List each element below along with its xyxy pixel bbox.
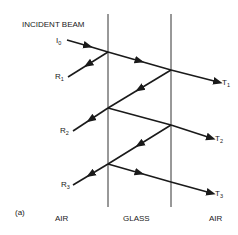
medium-label-air-right: AIR <box>209 214 223 223</box>
transmitted-label-1: T1 <box>222 78 230 88</box>
reflected-ray-2 <box>73 108 108 131</box>
glass-ray-2 <box>108 70 171 108</box>
transmitted-ray-3 <box>171 182 211 193</box>
medium-label-glass: GLASS <box>123 214 150 223</box>
incident-ray <box>67 40 108 52</box>
glass-ray-3 <box>108 108 171 125</box>
glass-ray-1 <box>108 52 171 70</box>
medium-label-air-left: AIR <box>55 214 69 223</box>
transmitted-label-2: T2 <box>215 134 223 144</box>
diagram-title: INCIDENT BEAM <box>22 20 85 29</box>
panel-label: (a) <box>15 208 25 217</box>
reflected-label-2: R2 <box>60 126 69 136</box>
glass-ray-5 <box>108 164 171 182</box>
reflected-label-1: R1 <box>55 72 64 82</box>
transmitted-ray-2 <box>171 125 211 138</box>
incident-label: I0 <box>56 36 61 46</box>
reflected-label-3: R3 <box>61 180 70 190</box>
transmitted-ray-1 <box>171 70 218 82</box>
reflected-ray-1 <box>68 52 108 77</box>
glass-ray-4 <box>108 125 171 164</box>
transmitted-label-3: T3 <box>215 189 223 199</box>
multiple-reflection-diagram: INCIDENT BEAM I0 R1 R2 R3 T1 T2 T3 (a) A… <box>0 0 238 235</box>
reflected-ray-3 <box>73 164 108 185</box>
